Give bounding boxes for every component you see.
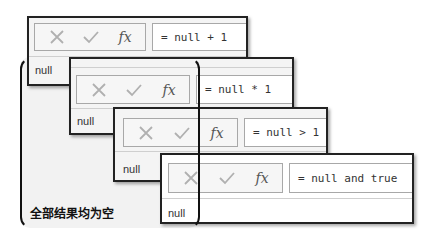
formula-bar[interactable]: = null and true [289,163,412,193]
formula-bar[interactable]: = null * 1 [196,75,292,104]
close-icon[interactable] [89,80,109,100]
close-icon[interactable] [136,123,156,143]
formula-toolbar-icons: fx [123,118,238,147]
check-icon[interactable] [124,80,144,100]
formula-toolbar-icons: fx [34,23,146,51]
formula-panel-4: fx = null and true null [160,153,414,224]
result-cell: null [35,64,52,76]
result-cell: null [77,115,94,127]
close-icon[interactable] [181,168,201,188]
result-cell: null [168,207,185,219]
close-icon[interactable] [47,27,67,47]
check-icon[interactable] [81,27,101,47]
check-icon[interactable] [172,123,192,143]
fx-icon[interactable]: fx [207,123,227,143]
result-cell: null [123,163,140,175]
formula-bar[interactable]: = null + 1 [152,23,246,51]
divider [162,198,412,199]
divider [115,151,326,152]
formula-toolbar-icons: fx [76,75,190,104]
check-icon[interactable] [217,168,237,188]
fx-icon[interactable]: fx [252,168,272,188]
fx-icon[interactable]: fx [115,27,135,47]
fx-icon[interactable]: fx [159,80,179,100]
divider [71,67,292,68]
caption-all-null: 全部结果均为空 [30,204,114,221]
formula-bar[interactable]: = null > 1 [244,118,326,147]
formula-toolbar-icons: fx [168,163,283,193]
